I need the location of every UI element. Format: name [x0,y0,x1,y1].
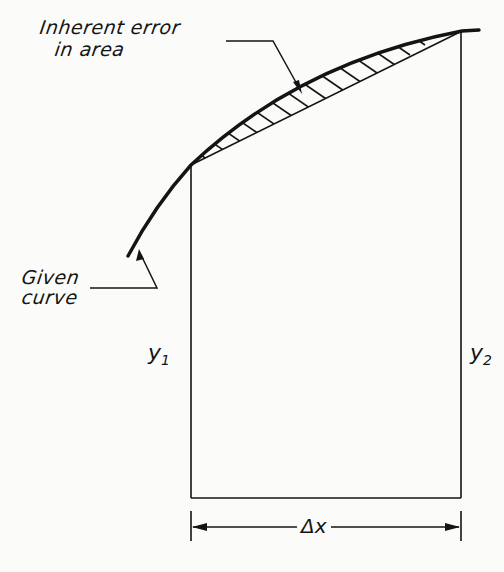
trapezoid-error-diagram: Inherent error in area Given curve y1 y2… [0,0,504,572]
inherent-error-label-line2: in area [54,40,126,59]
inherent-error-label-line1: Inherent error [39,18,182,37]
given-curve-label-line1: Given [21,268,81,287]
y2-label-main: y [470,340,483,365]
arrowhead-left-icon [192,523,207,531]
y2-label-subscript: 2 [483,352,492,368]
arrowhead-right-icon [445,523,460,531]
given-curve-arrow-icon [136,249,144,261]
y1-label: y1 [148,342,170,367]
given-curve-leader [90,255,157,288]
delta-x-label: Δx [297,516,331,536]
given-curve-label-line2: curve [21,288,79,307]
hatched-error-region [150,0,485,175]
chord-line [191,31,462,165]
y1-label-subscript: 1 [161,352,170,368]
given-curve [128,30,479,256]
y2-label: y2 [470,342,492,367]
y1-label-main: y [148,340,161,365]
inherent-error-leader [226,41,298,86]
